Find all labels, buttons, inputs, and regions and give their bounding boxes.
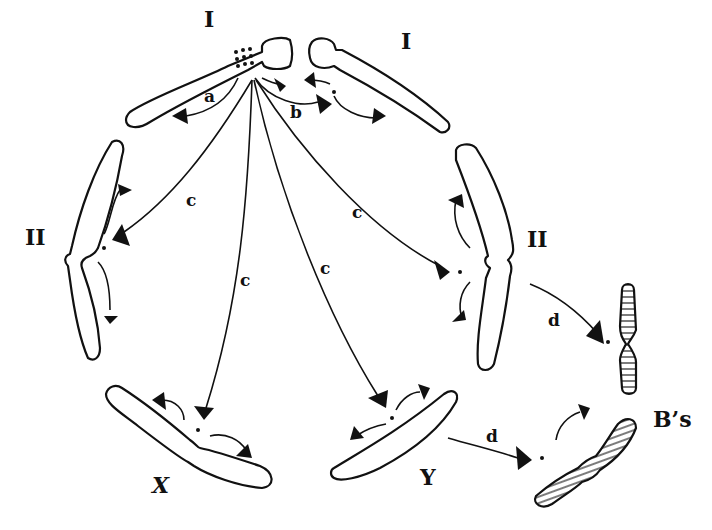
label-arrow-d1: d — [548, 312, 560, 329]
chromosome-B-diagonal — [535, 419, 636, 506]
chromosome-diagram: I I II II X Y B’s a b c c c c d d — [0, 0, 712, 530]
label-chromosome-X: X — [152, 474, 169, 496]
chromosome-B-upright — [620, 284, 636, 394]
chromosome-X — [106, 386, 272, 488]
chromosome-I-left — [126, 38, 292, 127]
label-chromosome-Y: Y — [420, 466, 436, 488]
label-chromosome-I-right: I — [401, 30, 411, 52]
label-chromosome-II-left: II — [25, 226, 46, 248]
label-arrow-b: b — [290, 104, 302, 121]
arrows — [98, 72, 610, 470]
label-arrow-a: a — [204, 88, 215, 105]
label-arrow-c2: c — [240, 272, 250, 289]
label-chromosome-Bs: B’s — [653, 408, 692, 430]
label-chromosome-II-right: II — [527, 228, 548, 250]
chromosome-Y — [331, 391, 457, 479]
diagram-canvas — [0, 0, 712, 530]
label-arrow-d2: d — [486, 428, 498, 445]
label-arrow-c1: c — [186, 192, 196, 209]
label-arrow-c3: c — [320, 260, 330, 277]
chromosome-II-right — [456, 144, 513, 370]
chromosome-II-left — [65, 141, 123, 360]
label-arrow-c4: c — [352, 204, 362, 221]
label-chromosome-I-left: I — [204, 8, 214, 30]
